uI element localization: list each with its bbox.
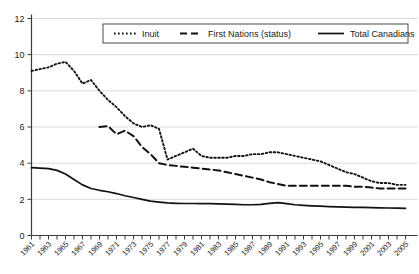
series-line-inuit — [32, 62, 406, 185]
x-tick-label: 1975 — [137, 240, 155, 258]
x-tick-label: 1969 — [86, 240, 104, 258]
x-tick-label: 1997 — [324, 240, 342, 258]
x-tick-label: 1999 — [341, 240, 359, 258]
y-tick-label: 0 — [19, 231, 24, 241]
x-tick-label: 1965 — [52, 240, 70, 258]
chart-container: 024681012 196119631965196719691971197319… — [0, 0, 419, 274]
y-tick-label: 12 — [14, 14, 24, 24]
x-tick-label: 1985 — [222, 240, 240, 258]
legend-label: Inuit — [142, 29, 160, 39]
x-tick-label: 1961 — [18, 240, 36, 258]
x-tick-label: 1991 — [273, 240, 291, 258]
y-tick-label: 6 — [19, 122, 24, 132]
x-tick-label: 1993 — [290, 240, 308, 258]
series-line-total-canadians — [32, 168, 406, 209]
x-tick-label: 1989 — [256, 240, 274, 258]
x-tick-label: 1967 — [69, 240, 87, 258]
x-tick-label: 1995 — [307, 240, 325, 258]
x-tick-label: 2001 — [358, 240, 376, 258]
legend-label: First Nations (status) — [208, 29, 291, 39]
series-group — [32, 62, 406, 208]
x-axis-ticks-group — [32, 236, 406, 240]
y-tick-label: 2 — [19, 195, 24, 205]
x-tick-label: 2005 — [392, 240, 410, 258]
x-tick-label: 2003 — [375, 240, 393, 258]
x-tick-label: 1963 — [35, 240, 53, 258]
x-tick-label: 1977 — [154, 240, 172, 258]
y-tick-label: 8 — [19, 86, 24, 96]
gridlines-group — [28, 19, 418, 236]
legend-label: Total Canadians — [350, 29, 415, 39]
chart-legend: InuitFirst Nations (status)Total Canadia… — [103, 24, 415, 43]
x-tick-label: 1983 — [205, 240, 223, 258]
y-tick-label: 4 — [19, 158, 24, 168]
y-axis-labels-group: 024681012 — [14, 14, 24, 241]
x-tick-label: 1987 — [239, 240, 257, 258]
axes-group — [32, 15, 418, 236]
x-tick-label: 1971 — [103, 240, 121, 258]
x-tick-label: 1981 — [188, 240, 206, 258]
x-axis-labels-group: 1961196319651967196919711973197519771979… — [18, 240, 410, 258]
y-tick-label: 10 — [14, 50, 24, 60]
series-line-first-nations-status — [100, 126, 406, 188]
x-tick-label: 1973 — [120, 240, 138, 258]
line-chart: 024681012 196119631965196719691971197319… — [0, 0, 419, 274]
x-tick-label: 1979 — [171, 240, 189, 258]
